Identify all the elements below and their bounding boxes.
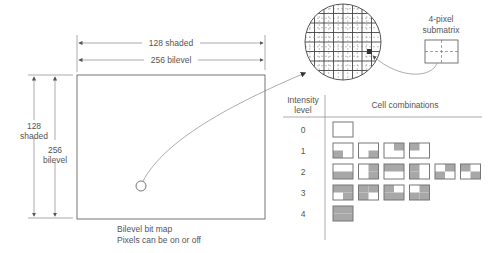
- shaded-pixel: [471, 172, 481, 180]
- cell-combination: [359, 185, 379, 200]
- height-label-bilevel-num: 256: [48, 145, 62, 155]
- zoom-arrow: [143, 73, 305, 181]
- submatrix-box: [425, 40, 458, 63]
- cell-combination: [384, 185, 404, 200]
- sample-region-circle: [136, 181, 146, 191]
- shaded-pixel: [333, 214, 343, 222]
- shaded-pixel: [333, 185, 343, 193]
- cell-combination: [384, 143, 404, 158]
- shaded-pixel: [343, 206, 353, 214]
- bitmap-rectangle: [77, 75, 265, 219]
- shaded-pixel: [410, 193, 420, 201]
- cell-combination: [359, 164, 379, 179]
- height-dimension: 128 shaded 256 bilevel: [20, 75, 73, 218]
- shaded-pixel: [384, 185, 394, 193]
- bitmap-diagram: 128 shaded 256 bilevel 128 shaded 256 bi…: [0, 0, 499, 253]
- magnified-grid: [305, 4, 381, 80]
- shaded-pixel: [333, 172, 343, 180]
- width-label-bilevel: 256 bilevel: [151, 55, 192, 65]
- shaded-pixel: [410, 143, 420, 151]
- cell-combination: [359, 143, 379, 158]
- shaded-pixel: [333, 206, 343, 214]
- shaded-pixel: [394, 143, 404, 151]
- width-dimension: 128 shaded 256 bilevel: [77, 35, 265, 72]
- height-label-bilevel-word: bilevel: [43, 155, 67, 165]
- shaded-pixel: [420, 185, 430, 193]
- intensity-level-label: 1: [301, 146, 306, 156]
- shaded-pixel: [333, 151, 343, 159]
- shaded-pixel: [343, 193, 353, 201]
- submatrix-label-line2: submatrix: [423, 25, 461, 35]
- cell-combination: [333, 143, 353, 158]
- shaded-pixel: [343, 172, 353, 180]
- shaded-pixel: [369, 164, 379, 172]
- cell-combination: [333, 185, 353, 200]
- submatrix-arrow: [373, 56, 437, 74]
- shaded-pixel: [394, 164, 404, 172]
- shaded-pixel: [410, 164, 420, 172]
- width-label-shaded: 128 shaded: [149, 38, 194, 48]
- shaded-pixel: [445, 164, 455, 172]
- bitmap-caption-line1: Bilevel bit map: [117, 224, 173, 234]
- cell-combination: [384, 164, 404, 179]
- shaded-pixel: [420, 193, 430, 201]
- height-label-shaded-num: 128: [27, 121, 41, 131]
- highlighted-submatrix-marker: [367, 49, 372, 54]
- intensity-level-label: 3: [301, 188, 306, 198]
- cell-background: [333, 122, 353, 137]
- cell-combination: [410, 185, 430, 200]
- shaded-pixel: [410, 172, 420, 180]
- cell-combination: [333, 206, 353, 221]
- intensity-table: Intensity level Cell combinations 01234: [283, 95, 482, 240]
- cell-combination: [333, 122, 353, 137]
- cell-combination: [435, 164, 455, 179]
- shaded-pixel: [343, 214, 353, 222]
- cell-combination: [410, 164, 430, 179]
- intensity-level-label: 2: [301, 167, 306, 177]
- header-intensity-line2: level: [294, 105, 312, 115]
- shaded-pixel: [343, 185, 353, 193]
- intensity-level-label: 0: [301, 125, 306, 135]
- shaded-pixel: [461, 164, 471, 172]
- header-cell-combinations: Cell combinations: [371, 100, 438, 110]
- submatrix-label-line1: 4-pixel: [428, 14, 453, 24]
- cell-combination: [333, 164, 353, 179]
- shaded-pixel: [369, 172, 379, 180]
- shaded-pixel: [384, 193, 394, 201]
- shaded-pixel: [369, 185, 379, 193]
- cell-combination: [410, 143, 430, 158]
- shaded-pixel: [359, 193, 369, 201]
- header-intensity-line1: Intensity: [287, 95, 319, 105]
- bitmap-caption-line2: Pixels can be on or off: [117, 235, 202, 245]
- intensity-level-label: 4: [301, 209, 306, 219]
- shaded-pixel: [369, 151, 379, 159]
- cell-combination: [461, 164, 481, 179]
- shaded-pixel: [384, 164, 394, 172]
- shaded-pixel: [435, 172, 445, 180]
- height-label-shaded-word: shaded: [20, 131, 48, 141]
- shaded-pixel: [359, 185, 369, 193]
- shaded-pixel: [394, 193, 404, 201]
